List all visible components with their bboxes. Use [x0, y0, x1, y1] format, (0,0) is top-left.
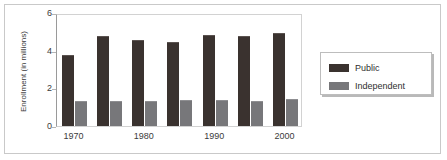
- bar-independent: [110, 101, 122, 126]
- y-axis-tick-label: 6: [32, 9, 52, 18]
- bar-independent: [286, 99, 298, 126]
- x-axis-tick-label: 2000: [274, 131, 294, 141]
- bar-independent: [145, 101, 157, 126]
- bar-group: [268, 15, 303, 126]
- bar-independent: [180, 100, 192, 126]
- bar-public: [132, 40, 144, 126]
- plot-bars-container: [57, 15, 301, 126]
- bar-group: [127, 15, 162, 126]
- legend-item-independent[interactable]: Independent: [329, 79, 405, 93]
- bar-public: [97, 36, 109, 126]
- bar-public: [167, 42, 179, 126]
- bar-independent: [251, 101, 263, 126]
- x-axis-tick-label: 1970: [64, 131, 84, 141]
- x-axis-tick-labels: 1970198019902000: [56, 131, 302, 147]
- bar-group: [57, 15, 92, 126]
- bar-public: [238, 36, 250, 126]
- x-axis-tick-label: 1980: [134, 131, 154, 141]
- y-axis-tick-mark: [52, 14, 56, 15]
- legend-swatch-independent-icon: [329, 82, 349, 90]
- y-axis-title-text: Enrollment (in millions): [19, 31, 28, 112]
- bar-independent: [75, 101, 87, 126]
- bar-public: [62, 55, 74, 126]
- bar-public: [273, 33, 285, 126]
- y-axis-tick-mark: [52, 89, 56, 90]
- bar-group: [233, 15, 268, 126]
- y-axis-tick-label: 0: [32, 122, 52, 131]
- x-axis-tick-label: 1990: [204, 131, 224, 141]
- legend-swatch-public-icon: [329, 64, 349, 72]
- y-axis-tick-mark: [52, 127, 56, 128]
- legend-item-public[interactable]: Public: [329, 61, 380, 75]
- y-axis-tick-label: 4: [32, 47, 52, 56]
- bar-independent: [216, 100, 228, 126]
- bar-public: [203, 35, 215, 126]
- legend-label: Independent: [355, 82, 405, 91]
- y-axis-tick-labels: 0246: [28, 0, 52, 160]
- bar-group: [162, 15, 197, 126]
- plot-area: [56, 14, 302, 127]
- legend-label: Public: [355, 64, 380, 73]
- chart-figure: Enrollment (in millions) 0246 1970198019…: [0, 0, 447, 160]
- bar-group: [92, 15, 127, 126]
- chart-legend: PublicIndependent: [320, 52, 432, 95]
- y-axis-tick-label: 2: [32, 84, 52, 93]
- y-axis-tick-mark: [52, 52, 56, 53]
- bar-group: [198, 15, 233, 126]
